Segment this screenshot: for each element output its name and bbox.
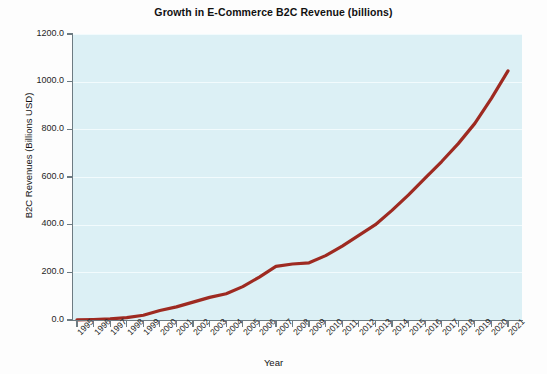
chart-figure: Growth in E-Commerce B2C Revenue (billio… [0,0,547,374]
x-axis-tick [292,321,293,327]
x-axis-title: Year [0,357,547,368]
y-axis-tick [67,272,73,273]
line-series-b2c-revenue [73,34,522,320]
y-axis-tick [67,319,73,320]
chart-title: Growth in E-Commerce B2C Revenue (billio… [0,6,547,18]
y-axis-tick-label: 200.0 [0,266,64,276]
y-axis-tick-label: 1200.0 [0,28,64,38]
y-axis-tick [67,81,73,82]
y-axis-tick [67,33,73,34]
y-axis-tick [67,129,73,130]
series-polyline [77,71,508,320]
y-axis-tick-label: 0.0 [0,314,64,324]
y-axis-tick [67,224,73,225]
y-axis-tick [67,176,73,177]
y-axis-title: B2C Revenues (Billions USD) [23,56,34,256]
plot-area [73,34,522,320]
